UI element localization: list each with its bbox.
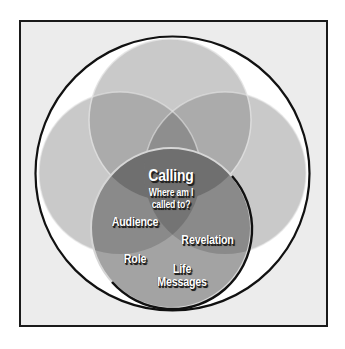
label-audience: Audience	[102, 215, 168, 228]
label-revelation: Revelation	[173, 233, 243, 246]
label-life-line2: Messages	[149, 275, 215, 288]
center-subtitle: Where am I called to?	[132, 186, 209, 210]
center-subtitle-line2: called to?	[132, 198, 209, 210]
center-title: Calling	[132, 167, 209, 184]
center-subtitle-line1: Where am I	[132, 186, 209, 198]
label-role: Role	[116, 252, 154, 265]
label-life-messages: Life Messages	[149, 262, 215, 288]
